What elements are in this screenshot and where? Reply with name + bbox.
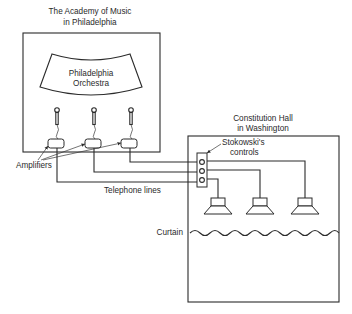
stokowski-controls-panel	[197, 153, 207, 187]
arrow-to-controls	[207, 144, 221, 153]
left-venue-title-line1: The Academy of Music	[49, 7, 132, 16]
microphone-icon-1	[55, 108, 60, 139]
right-venue-title-line1: Constitution Hall	[233, 114, 293, 123]
amplifier-icon-3	[121, 139, 137, 148]
microphone-icon-2	[92, 108, 97, 139]
curtain-wave	[190, 231, 339, 236]
amplifier-icon-1	[48, 139, 64, 148]
stage-label-line1: Philadelphia	[69, 69, 114, 78]
telephone-lines	[57, 148, 197, 182]
speaker-icon-3	[291, 198, 319, 214]
speaker-feed-lines	[207, 161, 305, 198]
amplifier-icon-2	[85, 139, 101, 148]
controls-label-line2: controls	[230, 148, 259, 157]
telephone-lines-label: Telephone lines	[104, 186, 161, 195]
left-venue-title-line2: in Philadelphia	[63, 18, 117, 27]
stage-label-line2: Orchestra	[73, 79, 109, 88]
stereo-transmission-diagram: The Academy of Music in Philadelphia Phi…	[0, 0, 352, 314]
academy-of-music-box	[23, 33, 160, 152]
controls-label-line1: Stokowski's	[222, 138, 265, 147]
microphone-icon-3	[129, 108, 134, 139]
curtain-label: Curtain	[157, 228, 184, 237]
right-venue-title-line2: in Washington	[237, 124, 289, 133]
speaker-icon-2	[246, 198, 274, 214]
amplifiers-label: Amplifiers	[16, 161, 52, 170]
speaker-icon-1	[204, 198, 232, 214]
